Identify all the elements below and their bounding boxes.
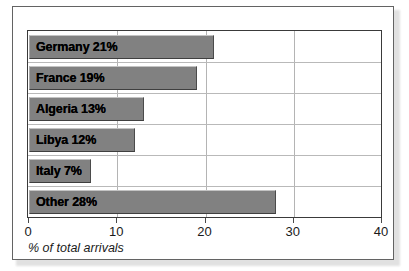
x-tick-label: 0 [24, 224, 31, 239]
bar-value-label: Libya 12% [36, 133, 96, 147]
bar-value-label: Germany 21% [36, 40, 118, 54]
bar-row: Germany 21% [29, 35, 214, 59]
bar-chart-figure: Germany 21%France 19%Algeria 13%Libya 12… [0, 0, 409, 271]
x-tick-mark [293, 218, 294, 223]
y-gridline [28, 186, 381, 187]
x-axis-title: % of total arrivals [28, 241, 124, 255]
bar-row: Other 28% [29, 190, 276, 214]
bar-row: Algeria 13% [29, 97, 144, 121]
x-tick-mark [116, 218, 117, 223]
x-tick-label: 30 [286, 224, 300, 239]
bar-row: France 19% [29, 66, 197, 90]
bar-libya[interactable]: Libya 12% [29, 128, 135, 152]
plot-area: Germany 21%France 19%Algeria 13%Libya 12… [27, 30, 382, 218]
x-tick-label: 20 [197, 224, 211, 239]
x-tick-mark [205, 218, 206, 223]
bar-germany[interactable]: Germany 21% [29, 35, 214, 59]
x-tick-mark [28, 218, 29, 223]
y-gridline [28, 124, 381, 125]
bar-italy[interactable]: Italy 7% [29, 159, 91, 183]
x-tick-mark [381, 218, 382, 223]
y-gridline [28, 62, 381, 63]
bar-value-label: Italy 7% [36, 164, 82, 178]
bar-other[interactable]: Other 28% [29, 190, 276, 214]
bar-algeria[interactable]: Algeria 13% [29, 97, 144, 121]
x-tick-label: 10 [109, 224, 123, 239]
y-gridline [28, 93, 381, 94]
bar-row: Libya 12% [29, 128, 135, 152]
bar-value-label: France 19% [36, 71, 104, 85]
bar-row: Italy 7% [29, 159, 91, 183]
bar-value-label: Algeria 13% [36, 102, 106, 116]
x-tick-label: 40 [374, 224, 388, 239]
bar-france[interactable]: France 19% [29, 66, 197, 90]
bar-value-label: Other 28% [36, 195, 97, 209]
y-gridline [28, 155, 381, 156]
